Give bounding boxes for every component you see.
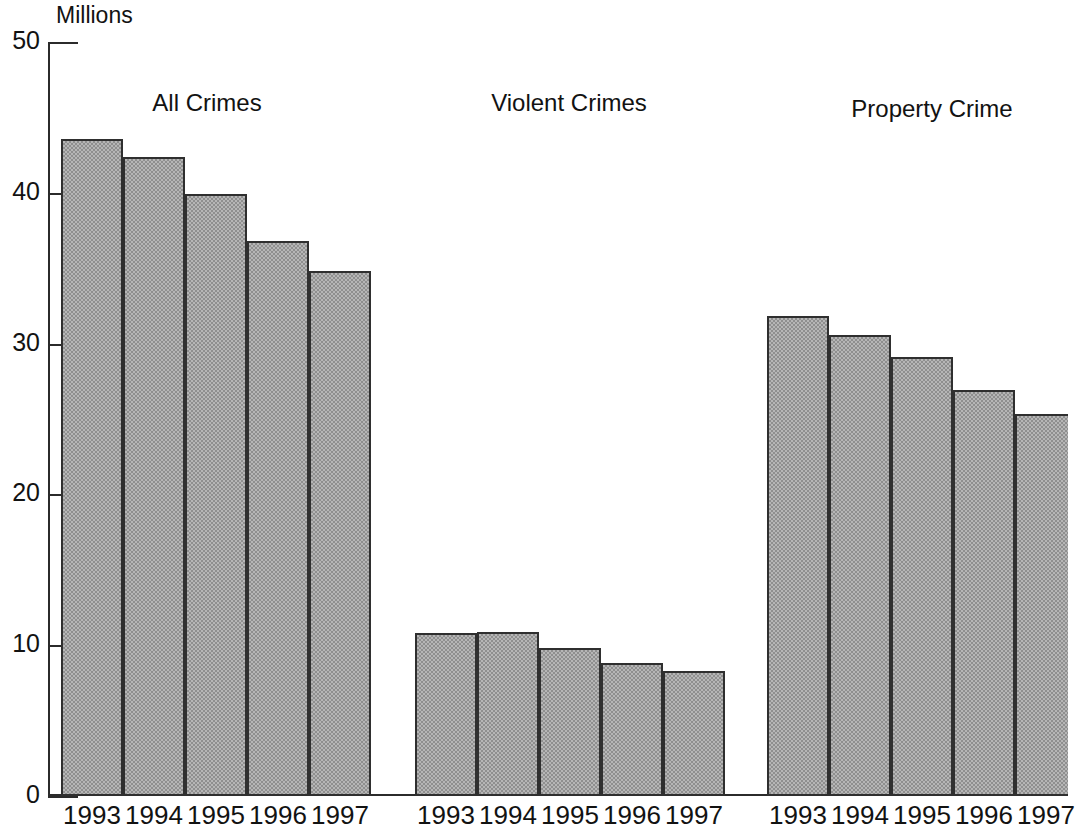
bar-property-crime-1996 (953, 390, 1015, 796)
y-tick-mark (48, 42, 78, 44)
bar-property-crime-1993 (767, 316, 829, 796)
bar-all-crimes-1993 (61, 139, 123, 796)
y-tick-label: 20 (0, 480, 40, 505)
bar-violent-crimes-1997 (663, 671, 725, 796)
y-tick-label: 10 (0, 631, 40, 656)
y-axis-line (48, 42, 50, 796)
x-label-property-crime-1997: 1997 (1001, 800, 1079, 830)
bar-property-crime-1995 (891, 357, 953, 796)
group-title-violent-crimes: Violent Crimes (419, 89, 719, 117)
bar-violent-crimes-1993 (415, 633, 477, 796)
y-axis-unit-label: Millions (56, 2, 133, 28)
bar-violent-crimes-1996 (601, 663, 663, 796)
bar-property-crime-1997 (1015, 414, 1068, 796)
y-tick-label: 0 (0, 782, 40, 807)
y-tick-label: 50 (0, 28, 40, 53)
bar-all-crimes-1996 (247, 241, 309, 796)
x-label-violent-crimes-1997: 1997 (649, 800, 739, 830)
y-tick-mark (48, 796, 78, 798)
bar-violent-crimes-1994 (477, 632, 539, 796)
group-title-property-crime: Property Crime (782, 95, 1079, 123)
bar-all-crimes-1997 (309, 271, 371, 796)
y-tick-label: 40 (0, 179, 40, 204)
x-label-all-crimes-1997: 1997 (295, 800, 385, 830)
y-tick-label: 30 (0, 330, 40, 355)
group-title-all-crimes: All Crimes (57, 89, 357, 117)
bar-all-crimes-1995 (185, 194, 247, 796)
bar-violent-crimes-1995 (539, 648, 601, 796)
bar-all-crimes-1994 (123, 157, 185, 796)
bar-property-crime-1994 (829, 335, 891, 796)
